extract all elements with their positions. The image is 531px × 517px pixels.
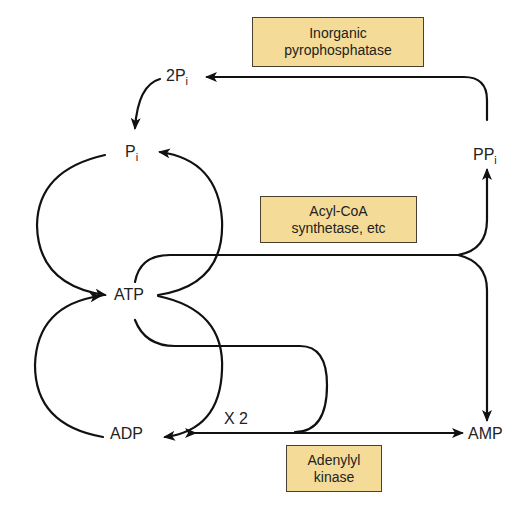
pi-to-atp-left-arc <box>37 155 105 295</box>
atp-to-pi-right-arc <box>158 152 222 295</box>
two-pi-to-pi-arrow <box>135 79 160 128</box>
enzyme-label-line2: kinase <box>314 469 354 486</box>
atp-to-adp-right-arc <box>158 296 222 437</box>
times-two-label: X 2 <box>224 410 248 428</box>
ppi-subscript: i <box>494 154 496 166</box>
pyrophosphatase-arrow <box>207 77 487 120</box>
branch-to-ppi-arrow <box>458 170 487 255</box>
atp-label: ATP <box>114 286 144 304</box>
adenylyl-kinase-box: Adenylyl kinase <box>286 445 382 492</box>
two-pi-base: 2P <box>166 67 186 84</box>
acyl-coa-synthetase-box: Acyl-CoA synthetase, etc <box>260 196 417 243</box>
pi-label: Pi <box>125 143 138 163</box>
atp-to-acyl-coa-line <box>135 255 458 282</box>
enzyme-label-line2: synthetase, etc <box>291 220 385 237</box>
enzyme-label-line2: pyrophosphatase <box>284 42 391 59</box>
adp-to-atp-left-arc <box>35 296 103 437</box>
two-pi-subscript: i <box>186 75 188 87</box>
enzyme-label-line1: Inorganic <box>309 25 367 42</box>
amp-label: AMP <box>468 425 503 443</box>
inorganic-pyrophosphatase-box: Inorganic pyrophosphatase <box>252 17 424 67</box>
pathway-arrows <box>0 0 531 517</box>
ppi-label: PPi <box>473 146 497 166</box>
enzyme-label-line1: Acyl-CoA <box>309 203 367 220</box>
branch-to-amp-arrow <box>458 255 487 420</box>
adp-label: ADP <box>110 425 143 443</box>
two-pi-label: 2Pi <box>166 67 188 87</box>
pi-base: P <box>125 143 136 160</box>
pi-subscript: i <box>136 151 138 163</box>
ppi-base: PP <box>473 146 494 163</box>
enzyme-label-line1: Adenylyl <box>308 452 361 469</box>
